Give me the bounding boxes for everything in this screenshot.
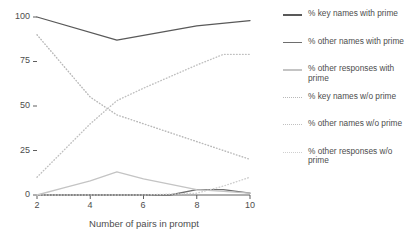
x-tick-label-8: 8 bbox=[187, 201, 207, 210]
legend-item-other-responses-with-prime[interactable]: % other responses with prime bbox=[283, 64, 408, 85]
x-axis-label: Number of pairs in prompt bbox=[37, 219, 251, 229]
legend-item-other-names-with-prime[interactable]: % other names with prime bbox=[283, 37, 408, 58]
legend-swatch-icon bbox=[283, 65, 302, 74]
chart-legend: % key names with prime % other names wit… bbox=[283, 9, 408, 174]
legend-swatch-icon bbox=[283, 148, 302, 157]
legend-swatch-icon bbox=[283, 10, 302, 19]
legend-item-label: % other responses with prime bbox=[308, 64, 404, 83]
series-lines bbox=[37, 17, 250, 195]
legend-item-label: % key names with prime bbox=[308, 9, 404, 19]
legend-item-label: % other responses w/o prime bbox=[308, 147, 404, 166]
legend-swatch-icon bbox=[283, 120, 302, 129]
y-tick-label-100: 100 bbox=[4, 12, 30, 21]
legend-item-key-names-with-prime[interactable]: % key names with prime bbox=[283, 9, 408, 30]
legend-item-label: % other names with prime bbox=[308, 37, 404, 47]
x-tick-label-4: 4 bbox=[80, 201, 100, 210]
y-tick-label-0: 0 bbox=[4, 190, 30, 199]
legend-item-key-names-wo-prime[interactable]: % key names w/o prime bbox=[283, 92, 408, 113]
x-tick-label-6: 6 bbox=[133, 201, 153, 210]
legend-item-label: % key names w/o prime bbox=[308, 92, 404, 102]
legend-item-label: % other names w/o prime bbox=[308, 119, 404, 129]
x-tick-label-2: 2 bbox=[27, 201, 47, 210]
y-tick-label-50: 50 bbox=[4, 101, 30, 110]
legend-item-other-responses-wo-prime[interactable]: % other responses w/o prime bbox=[283, 147, 408, 168]
legend-item-other-names-wo-prime[interactable]: % other names w/o prime bbox=[283, 119, 408, 140]
legend-swatch-icon bbox=[283, 93, 302, 102]
line-chart-figure: 100 75 50 25 0 2 4 6 8 10 Number of pair… bbox=[0, 0, 408, 243]
legend-swatch-icon bbox=[283, 38, 302, 47]
x-tick-label-10: 10 bbox=[240, 201, 260, 210]
y-tick-label-75: 75 bbox=[4, 56, 30, 65]
y-tick-label-25: 25 bbox=[4, 146, 30, 155]
axis-lines bbox=[33, 17, 250, 199]
